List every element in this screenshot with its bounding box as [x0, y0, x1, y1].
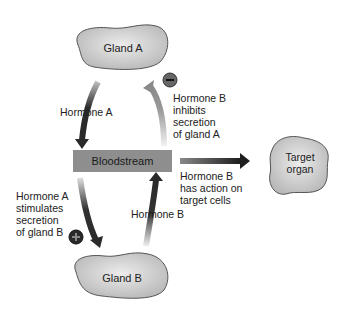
stimulates-line-3: secretion [16, 214, 59, 227]
inhibits-line-4: of gland A [173, 128, 220, 141]
action-line-1: Hormone B [180, 170, 233, 183]
action-line-2: has action on [180, 182, 242, 195]
minus-sign-icon [163, 73, 177, 87]
hormone-b-up-arrow-to-gland-a [150, 86, 164, 146]
gland-b-label: Gland B [97, 272, 147, 285]
stimulates-line-2: stimulates [16, 202, 63, 215]
inhibits-line-3: secretion [173, 116, 216, 129]
hormone-b-label: Hormone B [131, 208, 184, 221]
gland-a-label: Gland A [98, 42, 148, 55]
inhibits-line-1: Hormone B [173, 92, 226, 105]
hormone-a-label: Hormone A [60, 106, 113, 119]
action-line-3: target cells [180, 194, 231, 207]
stimulates-line-1: Hormone A [16, 190, 69, 203]
target-organ-label-1: Target [280, 151, 320, 164]
action-arrow-shaft [180, 158, 240, 164]
bloodstream-box: Bloodstream [73, 150, 172, 172]
hormone-a-down-arrow-to-gland-b [80, 178, 96, 240]
inhibits-line-2: inhibits [173, 104, 206, 117]
plus-sign-icon [69, 230, 83, 244]
stimulates-line-4: of gland B [16, 226, 63, 239]
target-organ-label-2: organ [280, 163, 320, 176]
